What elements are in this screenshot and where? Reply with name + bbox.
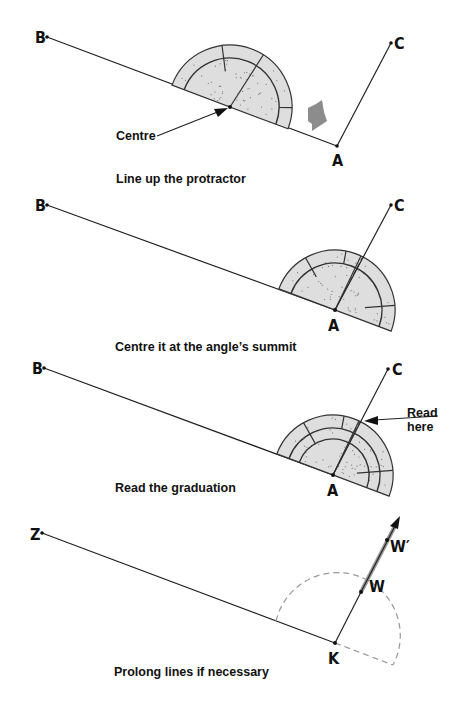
protractor-texture-speck [266,84,267,85]
motion-arrow-icon [308,100,327,131]
protractor-texture-speck [383,451,384,452]
protractor-texture-speck [348,260,349,261]
protractor-texture-speck [222,93,223,94]
protractor-texture-speck [275,101,276,102]
protractor-texture-speck [237,93,238,94]
point-label-A: A [328,316,340,335]
protractor-instructions-diagram: B C A Centre Line up the protractor B C … [0,0,458,716]
protractor-texture-speck [211,82,212,83]
caption-centre-it: Centre it at the angle’s summit [115,340,297,354]
point-label-B: B [35,28,46,47]
protractor-texture-speck [384,317,385,318]
guide-baseline-extension [335,643,393,665]
protractor-texture-speck [353,291,354,292]
protractor-texture-speck [330,296,331,297]
protractor-texture-speck [261,107,262,108]
protractor-texture-speck [318,444,319,445]
protractor-texture-speck [333,428,334,429]
protractor-texture-speck [370,451,371,452]
protractor-texture-speck [217,100,218,101]
protractor-texture-speck [271,108,272,109]
protractor-texture-speck [330,429,331,430]
protractor-texture-speck [345,466,346,467]
protractor-texture-speck [351,290,352,291]
protractor-texture-speck [242,91,243,92]
protractor-texture-speck [350,311,351,312]
point-label-A: A [327,481,339,500]
protractor-texture-speck [306,451,307,452]
protractor-texture-speck [343,299,344,300]
protractor-texture-speck [384,485,385,486]
protractor-texture-speck [276,80,277,81]
protractor-texture-speck [328,466,329,467]
protractor-texture-speck [193,65,194,66]
protractor-texture-speck [342,472,343,473]
protractor-texture-speck [358,456,359,457]
protractor-texture-speck [381,465,382,466]
panel-read-graduation: B C A Read here Read the graduation [32,359,438,500]
protractor-texture-speck [247,109,248,110]
protractor-texture-speck [346,462,347,463]
protractor-texture-speck [305,461,306,462]
protractor-texture-speck [303,439,304,440]
protractor-texture-speck [364,449,365,450]
prolongation-arrowhead [390,516,400,529]
point-C-dot [389,203,393,207]
point-A-dot [333,308,337,312]
protractor-texture-speck [246,72,247,73]
protractor-texture-speck [369,480,370,481]
protractor-texture-speck [266,114,267,115]
protractor-texture-speck [348,307,349,308]
protractor-texture-speck [295,441,296,442]
protractor-texture-speck [318,281,319,282]
caption-line-up: Line up the protractor [116,172,246,186]
protractor-texture-speck [345,447,346,448]
protractor-texture-speck [306,447,307,448]
protractor-texture-speck [386,322,387,323]
protractor-texture-speck [357,295,358,296]
protractor-texture-speck [331,294,332,295]
protractor-texture-speck [381,459,382,460]
protractor-texture-speck [377,313,378,314]
protractor-texture-speck [306,456,307,457]
protractor-texture-speck [250,97,251,98]
point-label-C: C [394,196,405,215]
protractor-texture-speck [304,446,305,447]
protractor-texture-speck [215,91,216,92]
point-label-C: C [392,360,403,379]
protractor-texture-speck [244,72,245,73]
protractor-texture-speck [236,100,237,101]
protractor-texture-speck [343,473,344,474]
point-W-prime-dot [385,538,389,542]
protractor-texture-speck [370,449,371,450]
point-A-dot [335,144,339,148]
protractor-texture-speck [337,256,338,257]
panel-line-up: B C A Centre Line up the protractor [35,28,405,186]
protractor-texture-speck [219,98,220,99]
protractor-texture-speck [313,274,314,275]
protractor-texture-speck [354,474,355,475]
protractor-texture-speck [320,283,321,284]
protractor-texture-speck [340,297,341,298]
protractor-texture-speck [181,78,182,79]
read-here-arrowhead [364,416,378,425]
protractor-texture-speck [350,428,351,429]
protractor-texture-speck [249,73,250,74]
protractor-texture-speck [355,469,356,470]
protractor-texture-speck [376,466,377,467]
protractor-texture-speck [273,70,274,71]
protractor-texture-speck [342,287,343,288]
protractor-texture-speck [346,423,347,424]
protractor-texture-speck [359,277,360,278]
protractor-texture-speck [352,468,353,469]
protractor-texture-speck [355,308,356,309]
protractor-texture-speck [355,309,356,310]
point-label-A: A [332,151,344,170]
protractor-texture-speck [214,98,215,99]
protractor-texture-speck [284,90,285,91]
protractor-texture-speck [243,100,244,101]
protractor-texture-speck [352,450,353,451]
protractor-texture-speck [335,419,336,420]
protractor [172,45,292,129]
point-label-C: C [394,34,405,53]
